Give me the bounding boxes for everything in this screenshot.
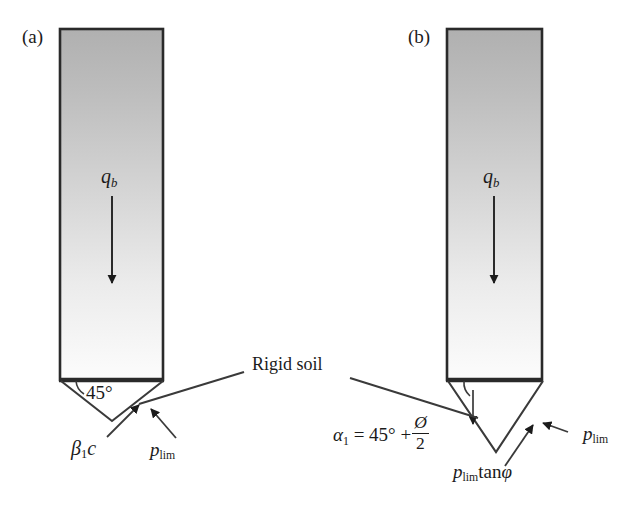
p-lim-label-a: plim <box>150 440 175 462</box>
phi-symbol: φ <box>501 461 512 482</box>
q-symbol-a: q <box>101 165 111 187</box>
load-label-a: qb <box>101 166 117 189</box>
panel-b-group <box>350 29 568 466</box>
load-label-b: qb <box>483 166 499 189</box>
q-subscript-b: b <box>493 176 499 190</box>
c-symbol: c <box>87 437 96 459</box>
rigid-soil-label: Rigid soil <box>252 354 323 375</box>
panel-label-b: (b) <box>408 26 430 48</box>
p-lim-tan-phi-label-b: plimtanφ <box>453 462 512 484</box>
figure-root: (a) (b) qb qb 45° β1c plim Rigid soil α1… <box>0 0 640 508</box>
alpha-equation-b: α1 = 45° + Ø 2 <box>333 414 430 453</box>
alpha-subscript: 1 <box>343 435 349 448</box>
angle-label-a: 45° <box>86 383 113 402</box>
beta1c-label-a: β1c <box>71 438 96 461</box>
p-subscript-b2: lim <box>593 433 609 446</box>
p-symbol-a: p <box>150 439 160 460</box>
p-lim-arrow-a <box>151 409 176 438</box>
p-lim-label-b: plim <box>583 424 608 446</box>
p-lim-arrow-b <box>543 423 568 432</box>
q-symbol-b: q <box>483 165 493 187</box>
panel-a-group <box>59 29 244 438</box>
phi-over-two-fraction: Ø 2 <box>412 414 429 453</box>
wedge-tip-b <box>448 381 543 452</box>
panel-label-a: (a) <box>22 26 43 48</box>
p-symbol-b: p <box>453 461 463 482</box>
p-subscript-a: lim <box>160 449 176 462</box>
tan-text: tan <box>478 461 501 482</box>
angle-arc-b <box>464 381 470 396</box>
q-subscript-a: b <box>111 176 117 190</box>
p-symbol-b2: p <box>583 423 593 444</box>
denominator-two: 2 <box>412 435 429 453</box>
beta-symbol: β <box>71 437 81 459</box>
diagram-canvas <box>0 0 640 508</box>
p-subscript-b: lim <box>463 471 479 484</box>
angle-arc-a <box>76 381 84 394</box>
alpha-equation-lead: = 45° + <box>354 424 412 445</box>
alpha-symbol: α <box>333 424 343 445</box>
phi-slashed-symbol: Ø <box>412 414 429 432</box>
